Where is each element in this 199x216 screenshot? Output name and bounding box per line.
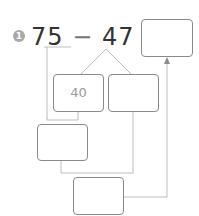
minus-sign: −: [72, 23, 93, 51]
problem-number-badge: 1: [13, 30, 25, 42]
ones-box[interactable]: [108, 74, 159, 112]
tens-box[interactable]: 40: [53, 74, 104, 112]
minuend: 75: [31, 23, 64, 51]
final-box[interactable]: [73, 177, 124, 215]
intermediate-box[interactable]: [37, 124, 88, 161]
answer-box[interactable]: [141, 19, 193, 57]
subtrahend: 47: [102, 23, 135, 51]
